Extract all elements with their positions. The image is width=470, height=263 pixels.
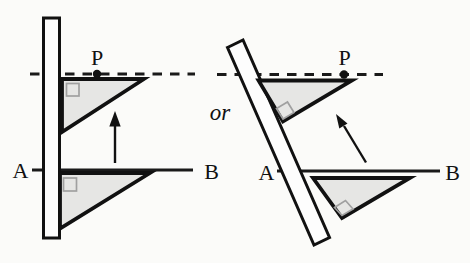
ruler [228,40,330,245]
left-diagram: P A B [13,18,219,238]
right-diagram: P A B [217,40,460,245]
construction-diagram-svg: P A B or P A B [0,0,470,263]
label-b: B [204,159,219,184]
or-label: or [210,100,232,125]
slide-arrow-head [336,114,348,128]
point-p-label: P [338,45,350,70]
point-p-dot [340,70,348,78]
label-a: A [13,158,29,183]
label-a: A [259,160,275,185]
slide-arrow-head [109,111,120,127]
point-p-dot [93,70,101,78]
slide-arrow-shaft [344,126,366,163]
point-p-label: P [91,45,103,70]
parallel-lines-construction-figure: P A B or P A B [0,0,470,263]
label-b: B [445,160,460,185]
set-square-lower [60,173,150,229]
set-square-lower [313,178,410,218]
set-square-upper [62,79,144,132]
ruler [44,18,60,238]
